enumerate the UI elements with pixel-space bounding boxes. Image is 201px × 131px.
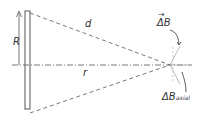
delta-b-axial-text: ΔB <box>162 91 176 102</box>
delta-b-vector <box>170 46 180 65</box>
ring-edge <box>25 11 30 109</box>
axial-distance-label: r <box>83 68 87 78</box>
distance-label: d <box>85 19 91 29</box>
delta-b-vector-mirror <box>170 65 180 84</box>
pointer-arrow-delta-b <box>170 30 179 44</box>
distance-line-bottom <box>30 65 170 113</box>
delta-b-axial-label: ΔBaxial <box>162 92 190 102</box>
delta-b-label: ΔB <box>157 18 171 28</box>
radius-label: R <box>13 37 20 47</box>
pointer-arrow-delta-b-axial <box>182 72 186 92</box>
delta-b-axial-subscript: axial <box>176 94 190 101</box>
distance-line-top <box>30 13 170 65</box>
